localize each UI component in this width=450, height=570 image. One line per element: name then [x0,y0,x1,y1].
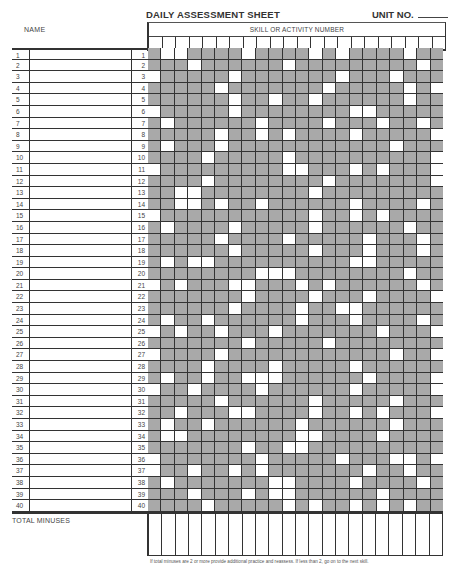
assessment-cell[interactable] [350,280,363,291]
assessment-cell[interactable] [309,291,322,302]
assessment-cell[interactable] [283,83,296,94]
assessment-cell[interactable] [215,349,228,360]
assessment-cell[interactable] [377,257,390,268]
assessment-cell[interactable] [202,384,215,395]
assessment-cell[interactable] [175,83,188,94]
assessment-cell[interactable] [229,407,242,418]
assessment-cell[interactable] [431,431,443,442]
assessment-cell[interactable] [404,349,417,360]
assessment-cell[interactable] [269,234,282,245]
assessment-cell[interactable] [202,222,215,233]
assessment-cell[interactable] [390,106,403,117]
assessment-cell[interactable] [431,129,443,140]
assessment-cell[interactable] [363,477,376,488]
assessment-cell[interactable] [256,152,269,163]
assessment-cell[interactable] [377,500,390,511]
assessment-cell[interactable] [323,315,336,326]
student-name-field[interactable] [29,361,132,372]
assessment-cell[interactable] [229,94,242,105]
assessment-cell[interactable] [283,373,296,384]
assessment-cell[interactable] [242,60,255,71]
student-name-field[interactable] [29,419,132,430]
assessment-cell[interactable] [229,291,242,302]
assessment-cell[interactable] [390,94,403,105]
assessment-cell[interactable] [350,234,363,245]
assessment-cell[interactable] [363,407,376,418]
student-name-field[interactable] [29,60,132,71]
assessment-cell[interactable] [188,222,201,233]
assessment-cell[interactable] [161,326,174,337]
assessment-cell[interactable] [148,129,161,140]
assessment-cell[interactable] [363,303,376,314]
assessment-cell[interactable] [188,338,201,349]
assessment-cell[interactable] [323,361,336,372]
assessment-cell[interactable] [215,187,228,198]
assessment-cell[interactable] [148,361,161,372]
assessment-cell[interactable] [242,71,255,82]
total-minuses-cell[interactable] [189,514,202,555]
assessment-cell[interactable] [148,442,161,453]
assessment-cell[interactable] [188,373,201,384]
total-minuses-cell[interactable] [202,514,215,555]
assessment-cell[interactable] [283,257,296,268]
assessment-cell[interactable] [175,373,188,384]
assessment-cell[interactable] [350,48,363,59]
student-name-field[interactable] [29,71,132,82]
assessment-cell[interactable] [404,94,417,105]
assessment-cell[interactable] [417,396,430,407]
assessment-cell[interactable] [309,152,322,163]
assessment-cell[interactable] [215,373,228,384]
assessment-cell[interactable] [390,71,403,82]
assessment-cell[interactable] [148,373,161,384]
assessment-cell[interactable] [363,338,376,349]
assessment-cell[interactable] [215,442,228,453]
assessment-cell[interactable] [188,489,201,500]
assessment-cell[interactable] [188,384,201,395]
assessment-cell[interactable] [363,222,376,233]
assessment-cell[interactable] [296,141,309,152]
assessment-cell[interactable] [242,373,255,384]
assessment-cell[interactable] [390,361,403,372]
assessment-cell[interactable] [175,268,188,279]
assessment-cell[interactable] [229,257,242,268]
assessment-cell[interactable] [175,303,188,314]
assessment-cell[interactable] [202,48,215,59]
student-name-field[interactable] [29,338,132,349]
assessment-cell[interactable] [215,94,228,105]
assessment-cell[interactable] [283,384,296,395]
assessment-cell[interactable] [283,118,296,129]
assessment-cell[interactable] [296,361,309,372]
assessment-cell[interactable] [377,407,390,418]
assessment-cell[interactable] [350,500,363,511]
assessment-cell[interactable] [404,176,417,187]
assessment-cell[interactable] [215,407,228,418]
student-name-field[interactable] [29,118,132,129]
assessment-cell[interactable] [161,118,174,129]
assessment-cell[interactable] [309,60,322,71]
assessment-cell[interactable] [188,257,201,268]
assessment-cell[interactable] [188,141,201,152]
assessment-cell[interactable] [202,245,215,256]
assessment-cell[interactable] [242,454,255,465]
assessment-cell[interactable] [309,477,322,488]
assessment-cell[interactable] [309,164,322,175]
assessment-cell[interactable] [283,361,296,372]
assessment-cell[interactable] [229,396,242,407]
assessment-cell[interactable] [417,152,430,163]
assessment-cell[interactable] [269,500,282,511]
assessment-cell[interactable] [148,477,161,488]
assessment-cell[interactable] [417,349,430,360]
assessment-cell[interactable] [283,48,296,59]
assessment-cell[interactable] [188,106,201,117]
student-name-field[interactable] [29,477,132,488]
assessment-cell[interactable] [350,152,363,163]
assessment-cell[interactable] [269,419,282,430]
assessment-cell[interactable] [269,222,282,233]
assessment-cell[interactable] [336,187,349,198]
assessment-cell[interactable] [283,465,296,476]
assessment-cell[interactable] [161,210,174,221]
assessment-cell[interactable] [309,71,322,82]
assessment-cell[interactable] [417,245,430,256]
assessment-cell[interactable] [229,118,242,129]
assessment-cell[interactable] [202,407,215,418]
